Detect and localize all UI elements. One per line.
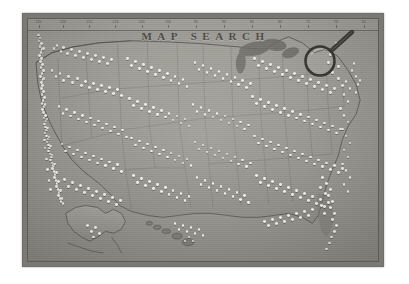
ruler-tick: 115: [86, 20, 92, 25]
magnifier-glyph: [296, 28, 358, 80]
map-field[interactable]: 12512011511010510095908580757065 MAP SEA…: [28, 19, 378, 261]
florida-shape: [316, 194, 334, 238]
ruler-tick: 120: [60, 20, 66, 25]
ruler-tick: 75: [306, 20, 310, 25]
ruler-tick: 85: [250, 20, 254, 25]
ruler-tick: 65: [362, 20, 366, 25]
hawaii-shape: [146, 221, 194, 245]
map-search-screenshot: 12512011511010510095908580757065 MAP SEA…: [0, 0, 409, 284]
magnifying-glass-icon[interactable]: [296, 28, 358, 80]
ruler-tick: 110: [113, 20, 119, 25]
map-plate: 12512011511010510095908580757065 MAP SEA…: [22, 13, 384, 267]
ruler-tick: 80: [278, 20, 282, 25]
ruler-tick: 125: [36, 20, 42, 25]
ruler-tick: 95: [194, 20, 198, 25]
ruler-tick: 105: [139, 20, 145, 25]
ruler-tick: 90: [222, 20, 226, 25]
ruler-tick: 70: [334, 20, 338, 25]
alaska-shape: [66, 205, 126, 253]
ruler-tick: 100: [165, 20, 171, 25]
